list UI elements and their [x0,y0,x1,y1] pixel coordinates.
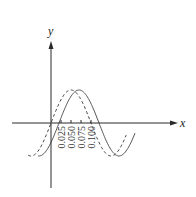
x-axis-label: x [179,116,186,130]
y-axis-arrow-icon [49,41,54,49]
chart: x y 0.0250.0500.0750.100 [0,0,196,197]
y-axis-label: y [47,24,54,38]
x-ticks: 0.0250.0500.0750.100 [56,120,97,149]
x-axis-arrow-icon [170,121,178,126]
x-tick-label: 0.100 [86,126,97,149]
